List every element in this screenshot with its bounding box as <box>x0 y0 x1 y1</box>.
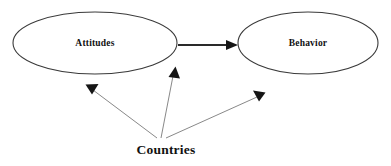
moderator-arrow-right-shaft <box>166 97 257 138</box>
edge-countries-to-path <box>161 67 180 139</box>
edge-countries-to-attitudes <box>86 84 158 138</box>
diagram-canvas: Attitudes Behavior Countries <box>0 0 391 166</box>
moderator-arrow-middle-head-icon <box>169 67 181 79</box>
behavior-label: Behavior <box>289 38 328 48</box>
moderator-arrow-left-shaft <box>93 90 157 138</box>
attitudes-label: Attitudes <box>75 38 114 48</box>
moderation-diagram: Attitudes Behavior Countries <box>0 0 391 166</box>
node-behavior[interactable]: Behavior <box>238 12 378 74</box>
moderator-arrow-middle-shaft <box>161 76 173 138</box>
main-arrow-head-icon <box>226 40 238 50</box>
node-attitudes[interactable]: Attitudes <box>13 12 177 74</box>
edge-attitudes-to-behavior <box>178 40 238 50</box>
node-countries[interactable]: Countries <box>137 142 196 157</box>
countries-label: Countries <box>137 142 196 157</box>
edge-countries-to-behavior <box>166 91 266 139</box>
moderator-arrow-right-head-icon <box>253 91 266 102</box>
